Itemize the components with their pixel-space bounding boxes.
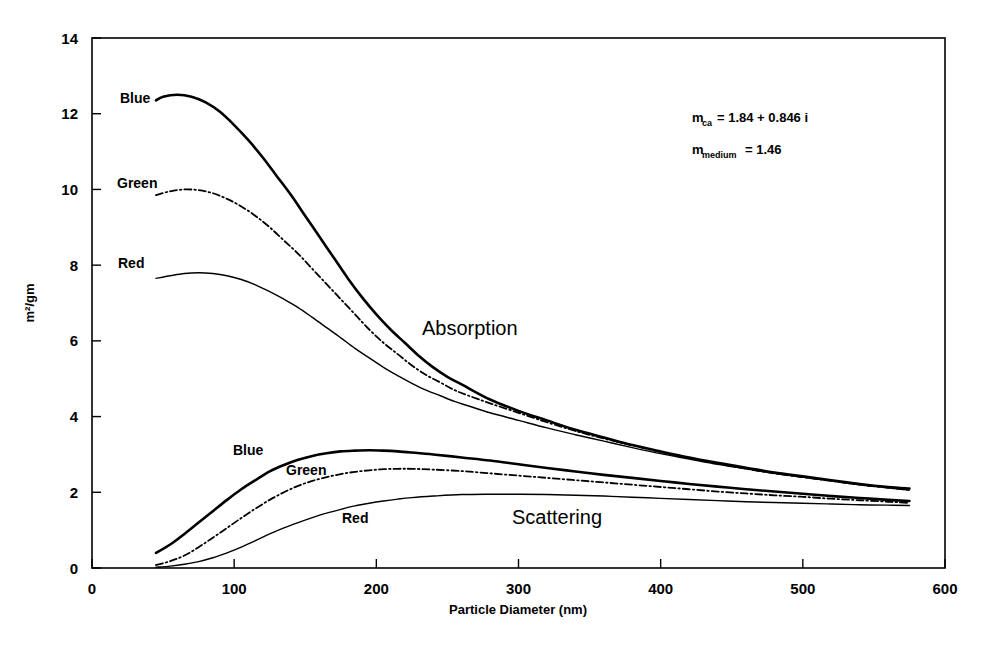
y-axis-tick-labels: 02468101214 [61,30,78,577]
figure-container: 02468101214 0100200300400500600 m²/gm Pa… [0,0,993,651]
y-tick-label-12: 12 [61,105,78,122]
x-tick-label-100: 100 [222,580,247,597]
y-tick-label-0: 0 [70,560,78,577]
curve-label-scattering-blue: Blue [233,442,264,458]
curve-label-scattering-green: Green [286,462,326,478]
mie-extinction-chart: 02468101214 0100200300400500600 m²/gm Pa… [0,0,993,651]
x-tick-label-500: 500 [790,580,815,597]
annotation-line1-rest: = 1.84 + 0.846 i [717,110,808,125]
plot-frame [92,38,945,568]
annotation-line1-subscript: ca [702,118,713,128]
annotation-line2-subscript: medium [702,150,737,160]
curve-label-absorption-blue: Blue [120,90,151,106]
x-tick-label-0: 0 [88,580,96,597]
absorption-region-label: Absorption [422,317,518,339]
x-tick-label-400: 400 [648,580,673,597]
x-tick-label-300: 300 [506,580,531,597]
y-tick-label-10: 10 [61,181,78,198]
annotation-line2-rest: = 1.46 [745,142,782,157]
x-axis-title: Particle Diameter (nm) [449,602,587,617]
curve-label-absorption-red: Red [118,255,144,271]
y-tick-label-8: 8 [70,257,78,274]
y-tick-label-2: 2 [70,484,78,501]
y-tick-label-6: 6 [70,332,78,349]
curve-label-absorption-green: Green [117,175,157,191]
y-tick-label-14: 14 [61,30,78,47]
x-axis-tick-labels: 0100200300400500600 [88,580,958,597]
x-tick-label-600: 600 [932,580,957,597]
scattering-region-label: Scattering [512,506,602,528]
curve-label-scattering-red: Red [342,510,368,526]
y-axis-title: m²/gm [22,284,37,323]
x-tick-label-200: 200 [364,580,389,597]
y-tick-label-4: 4 [70,408,79,425]
